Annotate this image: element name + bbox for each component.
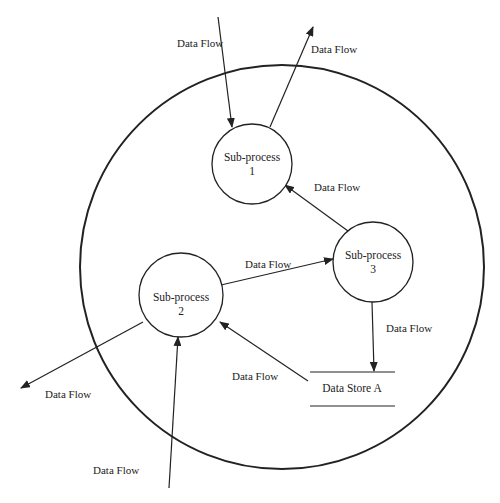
- flow-arrow-p2-to-external: [21, 322, 143, 388]
- process-3-title: Sub-process: [345, 249, 402, 262]
- flow-arrow-p1-to-external: [270, 27, 313, 127]
- data-store-label: Data Store A: [322, 382, 382, 394]
- process-3: Sub-process 3: [333, 222, 413, 302]
- process-2: Sub-process 2: [139, 253, 223, 337]
- flow-arrow-p3-to-store: [372, 302, 374, 371]
- flow-label-external-to-p2: Data Flow: [93, 464, 139, 476]
- flow-label-p2-to-p3: Data Flow: [245, 258, 291, 270]
- data-flow-diagram: Data Store A Sub-process 1 Sub-process 2…: [0, 0, 500, 503]
- process-3-number: 3: [370, 263, 376, 275]
- process-2-number: 2: [178, 305, 184, 317]
- flow-label-store-to-p2: Data Flow: [232, 370, 278, 382]
- process-2-title: Sub-process: [153, 291, 210, 304]
- flow-label-p3-to-store: Data Flow: [386, 322, 432, 334]
- flow-label-p3-to-p1: Data Flow: [314, 181, 360, 193]
- flow-arrow-external-to-p2: [169, 337, 178, 488]
- flow-label-p2-to-external: Data Flow: [45, 388, 91, 400]
- process-1-title: Sub-process: [224, 151, 281, 164]
- process-1-number: 1: [249, 165, 255, 177]
- process-1: Sub-process 1: [212, 124, 292, 204]
- flow-label-external-to-p1: Data Flow: [177, 37, 223, 49]
- flow-label-p1-to-external: Data Flow: [311, 43, 357, 55]
